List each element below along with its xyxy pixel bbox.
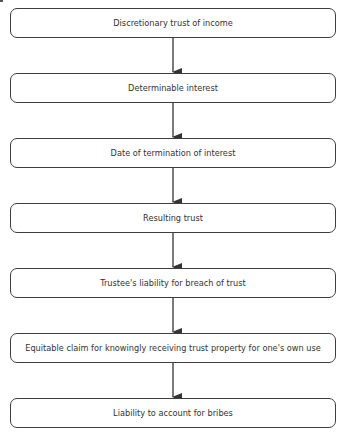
flow-node-discretionary-trust: Discretionary trust of income: [10, 8, 336, 38]
flow-node-date-of-termination: Date of termination of interest: [10, 138, 336, 168]
corner-mark: [0, 0, 3, 2]
flow-node-trustee-liability: Trustee's liability for breach of trust: [10, 268, 336, 298]
flow-node-determinable-interest: Determinable interest: [10, 73, 336, 103]
node-label: Liability to account for bribes: [113, 408, 233, 418]
node-label: Determinable interest: [128, 83, 218, 93]
node-label: Equitable claim for knowingly receiving …: [25, 343, 321, 353]
node-label: Resulting trust: [143, 213, 203, 223]
node-label: Trustee's liability for breach of trust: [100, 278, 246, 288]
node-label: Discretionary trust of income: [113, 18, 232, 28]
node-label: Date of termination of interest: [111, 148, 236, 158]
flow-node-equitable-claim: Equitable claim for knowingly receiving …: [10, 333, 336, 363]
flow-node-resulting-trust: Resulting trust: [10, 203, 336, 233]
flow-node-liability-bribes: Liability to account for bribes: [10, 398, 336, 428]
